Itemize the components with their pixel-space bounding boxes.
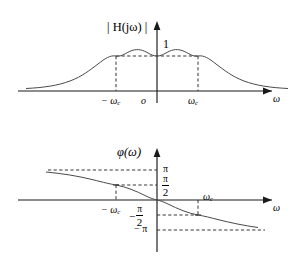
phase-neg-half-pi-sign: − — [129, 211, 136, 222]
phase-half-pi-label: π 2 — [162, 174, 169, 199]
magnitude-positive-cutoff-subscript: c — [195, 99, 198, 106]
magnitude-negative-cutoff-subscript: c — [117, 99, 120, 106]
magnitude-gain-label: 1 — [163, 38, 169, 50]
magnitude-positive-cutoff-omega: ω — [188, 95, 195, 106]
magnitude-positive-cutoff-label: ωc — [188, 96, 198, 107]
phase-positive-cutoff-label: ωc — [203, 192, 213, 203]
phase-neg-half-pi-numerator: π — [136, 204, 143, 216]
phase-y-axis-arrowhead — [154, 148, 161, 157]
phase-positive-cutoff-omega: ω — [203, 191, 210, 202]
phase-half-pi-denominator: 2 — [162, 186, 169, 199]
magnitude-negative-cutoff-label: − ωc — [101, 96, 120, 107]
phase-y-axis-label: φ(ω) — [117, 146, 141, 159]
magnitude-y-axis-arrowhead — [154, 21, 161, 30]
magnitude-negative-cutoff-omega: − ω — [101, 95, 117, 106]
phase-x-axis-arrowhead — [263, 197, 272, 204]
phase-half-pi-numerator: π — [162, 174, 169, 186]
frequency-response-figure: | H(jω) | 1 − ωc o ωc ω φ(ω) — [0, 0, 291, 261]
phase-response-plot — [0, 130, 291, 261]
magnitude-y-axis-label: | H(jω) | — [107, 21, 147, 34]
phase-pi-label: π — [163, 164, 168, 174]
magnitude-x-axis-label: ω — [273, 94, 280, 104]
magnitude-x-axis-arrowhead — [263, 88, 272, 95]
phase-negative-cutoff-omega: − ω — [101, 204, 117, 215]
phase-x-axis-label: ω — [273, 203, 280, 213]
phase-positive-cutoff-subscript: c — [210, 195, 213, 202]
magnitude-origin-label: o — [141, 96, 146, 106]
phase-negative-cutoff-label: − ωc — [101, 205, 120, 216]
phase-negative-cutoff-subscript: c — [117, 208, 120, 215]
phase-half-pi-fraction: π 2 — [162, 174, 169, 199]
phase-neg-pi-label: − π — [134, 224, 147, 234]
